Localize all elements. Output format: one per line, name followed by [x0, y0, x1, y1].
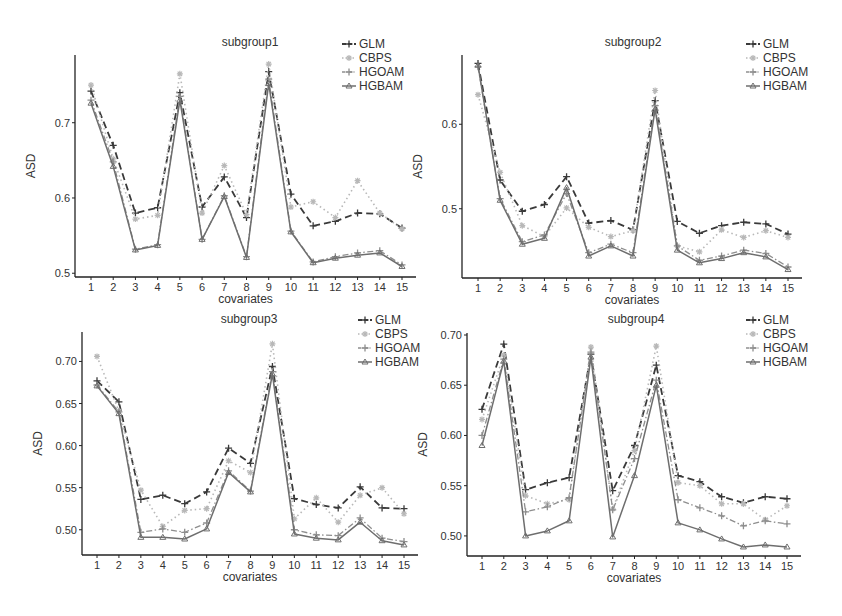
- x-tick-label: 12: [332, 559, 344, 571]
- x-tick-label: 1: [94, 559, 100, 571]
- y-tick-label: 0.6: [55, 192, 70, 204]
- series-line: [478, 63, 788, 234]
- asterisk-marker-icon: [379, 485, 385, 491]
- plus-marker-icon: [500, 341, 507, 348]
- asterisk-marker-icon: [138, 487, 144, 493]
- plus-marker-icon: [357, 514, 364, 521]
- y-tick-label: 0.70: [56, 355, 77, 367]
- legend-label-hgbam: HGBAM: [763, 355, 807, 369]
- x-tick-label: 15: [396, 281, 408, 293]
- plus-marker-icon: [544, 479, 551, 486]
- legend: GLMCBPSHGOAMHGBAM: [746, 37, 808, 93]
- plus-marker-icon: [335, 504, 342, 511]
- asterisk-marker-icon: [696, 249, 702, 255]
- x-tick-label: 5: [177, 281, 183, 293]
- x-tick-label: 1: [479, 560, 485, 572]
- asterisk-marker-icon: [586, 224, 592, 230]
- plus-marker-icon: [379, 504, 386, 511]
- series-glm: [475, 60, 792, 238]
- y-axis-label: ASD: [31, 431, 45, 456]
- legend-label-glm: GLM: [763, 37, 789, 51]
- asterisk-marker-icon: [226, 458, 232, 464]
- y-axis-label: ASD: [24, 153, 38, 178]
- asterisk-marker-icon: [362, 331, 368, 337]
- plus-marker-icon: [718, 512, 725, 519]
- asterisk-marker-icon: [357, 492, 363, 498]
- legend-label-cbps: CBPS: [763, 327, 796, 341]
- y-tick-label: 0.50: [441, 530, 462, 542]
- asterisk-marker-icon: [266, 61, 272, 67]
- legend-label-glm: GLM: [375, 313, 401, 327]
- plus-marker-icon: [784, 520, 791, 527]
- x-axis-label: covariates: [223, 570, 278, 584]
- x-tick-label: 5: [182, 559, 188, 571]
- asterisk-marker-icon: [740, 501, 746, 507]
- x-tick-label: 11: [311, 559, 322, 571]
- plus-marker-icon: [154, 204, 161, 211]
- asterisk-marker-icon: [346, 55, 352, 61]
- asterisk-marker-icon: [248, 470, 254, 476]
- legend-label-cbps: CBPS: [375, 327, 408, 341]
- legend-label-hgoam: HGOAM: [375, 341, 420, 355]
- plus-marker-icon: [784, 495, 791, 502]
- plus-marker-icon: [137, 496, 144, 503]
- legend-label-glm: GLM: [763, 313, 789, 327]
- legend-label-cbps: CBPS: [763, 51, 796, 65]
- y-tick-label: 0.55: [441, 480, 462, 492]
- plus-marker-icon: [110, 142, 117, 149]
- x-tick-label: 1: [88, 281, 94, 293]
- plus-marker-icon: [181, 500, 188, 507]
- y-tick-label: 0.65: [441, 379, 462, 391]
- y-axis-label: ASD: [416, 432, 430, 457]
- x-tick-label: 10: [285, 281, 297, 293]
- asterisk-marker-icon: [377, 210, 383, 216]
- x-tick-label: 14: [374, 281, 386, 293]
- x-tick-label: 13: [354, 559, 366, 571]
- plus-marker-icon: [88, 88, 95, 95]
- y-tick-label: 0.7: [55, 117, 70, 129]
- asterisk-marker-icon: [653, 343, 659, 349]
- x-tick-label: 15: [781, 560, 793, 572]
- x-tick-label: 4: [160, 559, 166, 571]
- subplot-title: subgroup4: [608, 312, 665, 326]
- series-cbps: [475, 87, 791, 254]
- x-tick-label: 6: [204, 559, 210, 571]
- legend-label-glm: GLM: [359, 37, 385, 51]
- plus-marker-icon: [479, 406, 486, 413]
- asterisk-marker-icon: [221, 163, 227, 169]
- legend: GLMCBPSHGOAMHGBAM: [342, 37, 404, 93]
- y-tick-label: 0.5: [55, 267, 70, 279]
- x-tick-label: 14: [376, 559, 388, 571]
- x-tick-label: 6: [586, 282, 592, 294]
- x-axis-label: covariates: [607, 571, 662, 585]
- subplot-title: subgroup1: [222, 35, 279, 49]
- x-axis-label: covariates: [218, 292, 273, 306]
- x-tick-label: 13: [351, 281, 363, 293]
- x-tick-label: 12: [329, 281, 341, 293]
- plus-marker-icon: [740, 219, 747, 226]
- plus-marker-icon: [159, 492, 166, 499]
- asterisk-marker-icon: [697, 483, 703, 489]
- x-tick-label: 4: [541, 282, 547, 294]
- plus-marker-icon: [750, 69, 757, 76]
- asterisk-marker-icon: [479, 416, 485, 422]
- asterisk-marker-icon: [399, 226, 405, 232]
- plus-marker-icon: [675, 472, 682, 479]
- asterisk-marker-icon: [719, 501, 725, 507]
- x-tick-label: 3: [132, 281, 138, 293]
- legend-label-cbps: CBPS: [359, 51, 392, 65]
- plus-marker-icon: [132, 210, 139, 217]
- plus-marker-icon: [313, 501, 320, 508]
- series-line: [91, 64, 402, 229]
- x-tick-label: 12: [716, 560, 728, 572]
- series-line: [91, 72, 402, 229]
- plus-marker-icon: [362, 317, 369, 324]
- plus-marker-icon: [354, 210, 361, 217]
- x-tick-label: 11: [694, 560, 705, 572]
- y-tick-label: 0.70: [441, 329, 462, 341]
- plus-marker-icon: [346, 69, 353, 76]
- asterisk-marker-icon: [155, 212, 161, 218]
- x-tick-label: 6: [199, 281, 205, 293]
- asterisk-marker-icon: [269, 341, 275, 347]
- plus-marker-icon: [675, 496, 682, 503]
